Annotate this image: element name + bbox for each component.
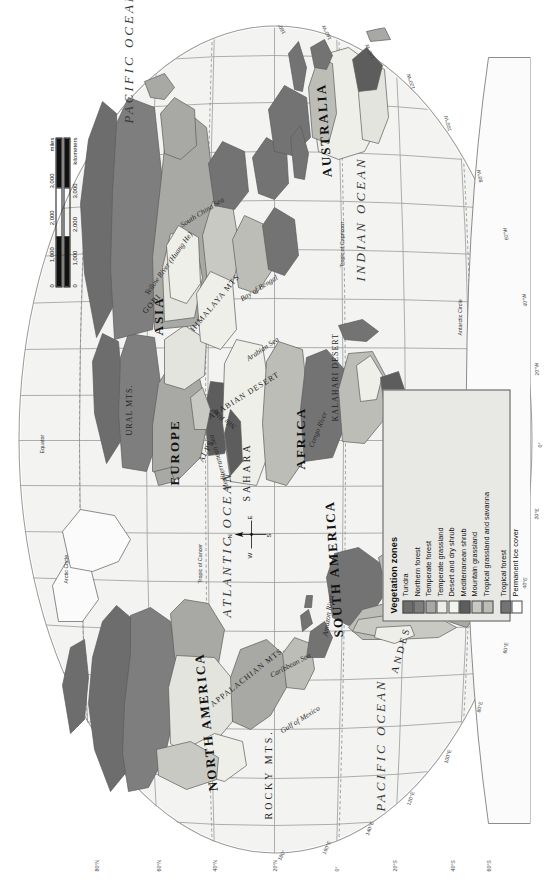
legend-label: Tropical grassland and savanna xyxy=(482,492,490,597)
legend-item: Northern forest xyxy=(413,397,424,613)
label-kalahari-desert: KALAHARI DESERT xyxy=(330,332,339,421)
legend-swatch xyxy=(425,600,436,613)
label-antarctic-circle: Antarctic Circle xyxy=(456,299,462,335)
scale-bar: 0 1,000 2,000 3,000 miles 0 1,000 2,000 … xyxy=(48,137,77,287)
legend-swatch xyxy=(448,600,459,613)
north-america-landmass xyxy=(52,509,332,791)
scale-km-ticks: 0 1,000 2,000 3,000 kilometers xyxy=(71,137,77,287)
label-rocky-mts: ROCKY MTS. xyxy=(262,729,273,819)
latitude-tick-label: 40°N xyxy=(211,859,217,871)
legend-item: Tundra xyxy=(401,397,412,613)
map-page: NORTH AMERICA SOUTH AMERICA EUROPE AFRIC… xyxy=(0,0,547,883)
legend-item: Mediterranean shrub xyxy=(459,397,470,613)
legend-item: Temperate grassland xyxy=(436,397,447,613)
label-tropic-of-capricorn: Tropic of Capricorn xyxy=(338,221,344,267)
scale-km-tick: 0 xyxy=(71,284,77,287)
legend-swatch xyxy=(436,600,447,613)
label-europe: EUROPE xyxy=(166,419,182,485)
legend-item: Mountain grassland xyxy=(470,397,481,613)
label-pacific-ocean-west: PACIFIC OCEAN xyxy=(372,678,388,811)
legend-item: Permanent ice cover xyxy=(511,397,522,613)
legend-swatch xyxy=(402,600,413,613)
legend-label: Tropical forest xyxy=(499,549,507,596)
compass-north: N xyxy=(226,534,232,538)
scale-bar-km xyxy=(63,137,70,287)
latitude-tick-label: 0° xyxy=(333,866,339,871)
legend-item: Desert and dry shrub xyxy=(447,397,458,613)
legend-rows: TundraNorthern forestTemperate forestTem… xyxy=(401,397,522,613)
label-equator: Equator xyxy=(38,434,44,453)
label-pacific-ocean-east: PACIFIC OCEAN xyxy=(120,0,136,123)
longitude-tick-label: 40°W xyxy=(520,293,527,306)
legend-label: Temperate forest xyxy=(424,541,432,596)
world-map: NORTH AMERICA SOUTH AMERICA EUROPE AFRIC… xyxy=(0,0,547,883)
legend-swatch xyxy=(511,600,522,613)
label-africa: AFRICA xyxy=(292,406,308,469)
legend-swatch xyxy=(500,600,511,613)
scale-mile-tick: 3,000 xyxy=(48,173,54,188)
legend-item: Tropical forest xyxy=(499,397,510,613)
compass-south: S xyxy=(265,533,271,537)
scale-km-tick: 2,000 xyxy=(71,217,77,232)
scale-mile-tick: 2,000 xyxy=(48,210,54,225)
legend-label: Tundra xyxy=(401,573,409,596)
label-arctic-circle: Arctic Circle xyxy=(62,554,68,583)
legend-swatch xyxy=(482,600,493,613)
legend-title: Vegetation zones xyxy=(388,397,398,613)
longitude-tick-label: 60°E xyxy=(501,642,509,654)
label-ural-mts: URAL MTS. xyxy=(124,384,133,435)
scale-bar-miles xyxy=(55,137,62,287)
latitude-tick-label: 60°N xyxy=(155,859,161,871)
scale-mile-tick: 0 xyxy=(48,284,54,287)
legend-label: Mountain grassland xyxy=(470,531,478,596)
legend-label: Northern forest xyxy=(413,547,421,596)
legend-label: Desert and dry shrub xyxy=(447,527,455,596)
longitude-tick-label: 20°E xyxy=(532,507,539,519)
legend-label: Permanent ice cover xyxy=(511,528,519,596)
legend-item: Tropical grassland and savanna xyxy=(482,397,499,613)
scale-mile-tick: 1,000 xyxy=(48,247,54,262)
legend-swatch xyxy=(471,600,482,613)
latitude-tick-label: 60°S xyxy=(485,860,491,871)
legend-swatch xyxy=(459,600,470,613)
latitude-tick-label: 80°N xyxy=(93,859,99,871)
label-tropic-of-cancer: Tropic of Cancer xyxy=(196,543,202,583)
scale-miles-unit: miles xyxy=(48,137,54,151)
scale-km-tick: 3,000 xyxy=(71,183,77,198)
latitude-tick-label: 40°S xyxy=(449,860,455,871)
legend-swatch xyxy=(413,600,424,613)
legend-item: Temperate forest xyxy=(424,397,435,613)
latitude-tick-label: 20°N xyxy=(271,859,277,871)
compass-west: W xyxy=(246,552,252,558)
legend-label: Mediterranean shrub xyxy=(459,528,467,596)
compass-east: E xyxy=(246,515,252,519)
legend-label: Temperate grassland xyxy=(436,527,444,596)
compass-icon xyxy=(232,515,270,553)
label-sahara: SAHARA xyxy=(240,442,251,501)
latitude-tick-label: 20°S xyxy=(391,860,397,871)
europe-landmass xyxy=(92,325,232,485)
label-indian-ocean: INDIAN OCEAN xyxy=(352,156,368,281)
scale-miles-ticks: 0 1,000 2,000 3,000 miles xyxy=(48,137,54,287)
longitude-tick-label: 20°W xyxy=(532,362,539,375)
longitude-tick-label: 0° xyxy=(536,442,542,447)
compass-rose: N E S W xyxy=(232,515,270,553)
scale-km-unit: kilometers xyxy=(71,137,77,164)
scale-km-tick: 1,000 xyxy=(71,250,77,265)
legend-box: Vegetation zones TundraNorthern forestTe… xyxy=(382,389,510,621)
rotated-map-container: NORTH AMERICA SOUTH AMERICA EUROPE AFRIC… xyxy=(0,0,547,883)
